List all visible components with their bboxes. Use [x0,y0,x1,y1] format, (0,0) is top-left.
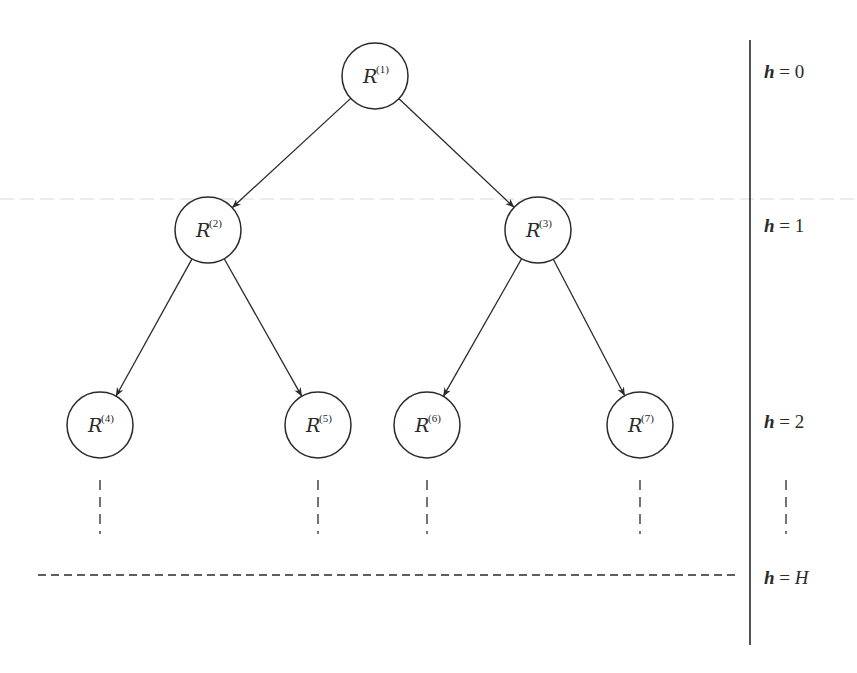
node-r1: R(1) [342,43,408,109]
node-superscript: (4) [101,412,114,425]
level-label-1: h = 1 [764,215,804,236]
edge-3-7 [553,259,624,395]
node-r6: R(6) [394,392,460,458]
level-labels: h = 0h = 1h = 2h = H [764,61,810,588]
node-r5: R(5) [285,392,351,458]
edge-2-4 [116,259,192,396]
edge-2-5 [224,259,301,396]
continuation-marks [100,480,786,534]
edge-3-6 [444,259,522,396]
node-r3: R(3) [505,197,571,263]
nodes: R(1)R(2)R(3)R(4)R(5)R(6)R(7) [67,43,673,458]
node-r7: R(7) [607,392,673,458]
node-superscript: (1) [376,63,389,76]
node-superscript: (7) [641,412,654,425]
node-superscript: (2) [209,217,222,230]
edge-1-2 [233,98,351,207]
node-superscript: (5) [319,412,332,425]
node-r2: R(2) [175,197,241,263]
tree-diagram: R(1)R(2)R(3)R(4)R(5)R(6)R(7) h = 0h = 1h… [0,0,857,673]
node-r4: R(4) [67,392,133,458]
edge-1-3 [399,99,514,207]
node-superscript: (3) [539,217,552,230]
level-label-H: h = H [764,567,810,588]
node-superscript: (6) [428,412,441,425]
level-label-0: h = 0 [764,61,804,82]
level-label-2: h = 2 [764,411,804,432]
